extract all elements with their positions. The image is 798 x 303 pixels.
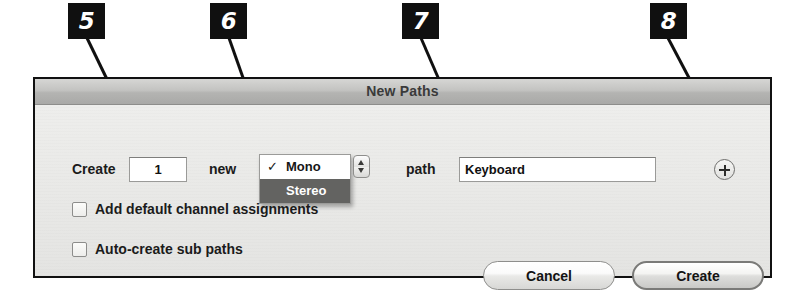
- checkbox-add-default-channel-assignments[interactable]: Add default channel assignments: [72, 201, 318, 217]
- stepper-down-arrow-icon[interactable]: [358, 168, 364, 173]
- dialog-titlebar: New Paths: [35, 79, 770, 105]
- callout-badge-5: 5: [68, 3, 105, 39]
- create-label: Create: [72, 161, 116, 177]
- add-path-button[interactable]: [714, 159, 735, 180]
- checkbox-add-default-label: Add default channel assignments: [95, 201, 318, 217]
- checkbox-auto-create-label: Auto-create sub paths: [95, 241, 243, 257]
- checkmark-icon: ✓: [267, 155, 278, 179]
- callout-badge-6: 6: [210, 3, 247, 39]
- menu-item-stereo-label: Stereo: [286, 183, 326, 198]
- menu-item-mono-label: Mono: [286, 159, 321, 174]
- channel-format-popup-menu[interactable]: ✓ Mono Stereo: [259, 154, 351, 204]
- plus-icon-vertical: [724, 165, 726, 176]
- new-label: new: [209, 161, 236, 177]
- path-label: path: [406, 161, 436, 177]
- stepper-up-arrow-icon[interactable]: [358, 160, 364, 165]
- path-count-input[interactable]: 1: [129, 157, 187, 182]
- path-name-input[interactable]: Keyboard: [459, 157, 656, 182]
- checkbox-auto-create-sub-paths[interactable]: Auto-create sub paths: [72, 241, 243, 257]
- callout-badge-8: 8: [650, 3, 687, 39]
- checkbox-box-icon[interactable]: [72, 202, 87, 217]
- menu-item-mono[interactable]: ✓ Mono: [260, 155, 350, 179]
- checkbox-box-icon[interactable]: [72, 242, 87, 257]
- cancel-button[interactable]: Cancel: [483, 261, 615, 290]
- callout-badge-7: 7: [402, 3, 439, 39]
- new-paths-dialog: New Paths Create 1 new ✓ Mono Stereo pat…: [33, 77, 772, 278]
- dialog-title: New Paths: [35, 83, 770, 99]
- menu-item-stereo[interactable]: Stereo: [260, 179, 350, 203]
- dialog-body: Create 1 new ✓ Mono Stereo path Keyboard: [35, 105, 770, 276]
- channel-format-stepper[interactable]: [353, 155, 370, 178]
- create-button[interactable]: Create: [632, 261, 764, 290]
